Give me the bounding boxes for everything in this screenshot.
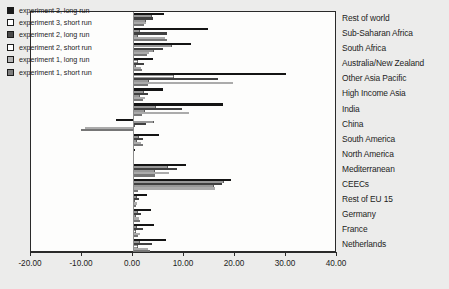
legend-item[interactable]: experiment 3, long run bbox=[4, 4, 124, 16]
category-label: High Income Asia bbox=[342, 88, 406, 98]
bar-group bbox=[31, 223, 335, 238]
category-label: Netherlands bbox=[342, 239, 386, 249]
bar-group bbox=[31, 193, 335, 208]
category-label: Germany bbox=[342, 209, 376, 219]
category-label: India bbox=[342, 104, 360, 114]
legend-item-label: experiment 3, long run bbox=[19, 6, 89, 15]
bar bbox=[133, 39, 167, 41]
x-axis-tick-label: -10.00 bbox=[69, 259, 92, 268]
bar bbox=[116, 119, 133, 121]
category-label-list: Rest of worldSub-Saharan AfricaSouth Afr… bbox=[342, 11, 447, 252]
category-label: China bbox=[342, 119, 363, 129]
bar bbox=[133, 84, 148, 86]
category-label: Rest of EU 15 bbox=[342, 194, 393, 204]
bar-group bbox=[31, 238, 335, 253]
category-label: Other Asia Pacific bbox=[342, 73, 406, 83]
legend-item-label: experiment 1, long run bbox=[19, 55, 89, 64]
category-label: Australia/New Zealand bbox=[342, 58, 424, 68]
x-axis-tick bbox=[132, 252, 133, 256]
legend-swatch-icon bbox=[7, 7, 14, 14]
x-axis-tick-label: 30.00 bbox=[275, 259, 296, 268]
legend-item-label: experiment 2, long run bbox=[19, 30, 89, 39]
bar-group bbox=[31, 87, 335, 102]
category-label: South Africa bbox=[342, 43, 386, 53]
category-label: CEECs bbox=[342, 179, 369, 189]
category-label: Rest of world bbox=[342, 13, 390, 23]
category-label: France bbox=[342, 224, 367, 234]
legend-item-label: experiment 1, short run bbox=[19, 68, 92, 77]
legend-item-label: experiment 3, short run bbox=[19, 18, 92, 27]
chart-legend: experiment 3, long runexperiment 3, shor… bbox=[4, 3, 124, 80]
zero-axis-line bbox=[133, 12, 134, 251]
category-label: Sub-Saharan Africa bbox=[342, 28, 413, 38]
bar bbox=[133, 24, 144, 26]
legend-swatch-icon bbox=[7, 56, 14, 63]
x-axis: -20.00-10.000.0010.0020.0030.0040.00 bbox=[30, 252, 336, 253]
x-axis-tick-label: 40.00 bbox=[326, 259, 347, 268]
bar bbox=[133, 99, 143, 101]
x-axis-tick bbox=[285, 252, 286, 256]
x-axis-tick bbox=[336, 252, 337, 256]
x-axis-tick-label: 10.00 bbox=[173, 259, 194, 268]
legend-item[interactable]: experiment 3, short run bbox=[4, 16, 124, 28]
legend-swatch-icon bbox=[7, 19, 14, 26]
bar bbox=[81, 129, 133, 131]
x-axis-tick bbox=[30, 252, 31, 256]
category-label: Mediterranean bbox=[342, 164, 395, 174]
bar-group bbox=[31, 178, 335, 193]
bar-group bbox=[31, 208, 335, 223]
legend-item[interactable]: experiment 2, long run bbox=[4, 29, 124, 41]
bar-group bbox=[31, 148, 335, 163]
legend-item[interactable]: experiment 2, short run bbox=[4, 41, 124, 53]
legend-swatch-icon bbox=[7, 44, 14, 51]
bar bbox=[133, 174, 155, 176]
x-axis-tick bbox=[234, 252, 235, 256]
bar-group bbox=[31, 102, 335, 117]
legend-swatch-icon bbox=[7, 69, 14, 76]
x-axis-tick bbox=[81, 252, 82, 256]
bar bbox=[133, 69, 142, 71]
bar bbox=[133, 28, 208, 30]
legend-item-label: experiment 2, short run bbox=[19, 43, 92, 52]
bar bbox=[133, 114, 142, 116]
legend-item[interactable]: experiment 1, long run bbox=[4, 54, 124, 66]
legend-item[interactable]: experiment 1, short run bbox=[4, 66, 124, 78]
bar-group bbox=[31, 133, 335, 148]
x-axis-tick-label: 20.00 bbox=[224, 259, 245, 268]
x-axis-tick-label: 0.00 bbox=[124, 259, 140, 268]
bar-group bbox=[31, 117, 335, 132]
bar bbox=[133, 187, 215, 189]
x-axis-tick bbox=[183, 252, 184, 256]
legend-swatch-icon bbox=[7, 31, 14, 38]
x-axis-tick-label: -20.00 bbox=[18, 259, 41, 268]
bar-group bbox=[31, 163, 335, 178]
category-label: North America bbox=[342, 149, 394, 159]
bar bbox=[133, 144, 143, 146]
chart-figure: experiment 3, long runexperiment 3, shor… bbox=[0, 0, 449, 289]
bar bbox=[133, 54, 147, 56]
category-label: South America bbox=[342, 134, 395, 144]
